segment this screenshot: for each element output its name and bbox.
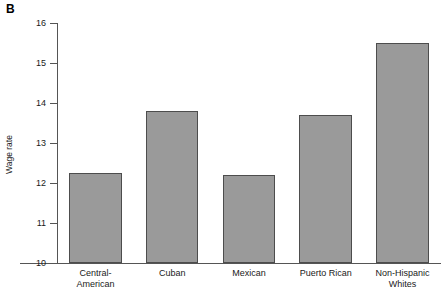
category-label: Non-HispanicWhites <box>364 268 441 290</box>
y-tick-label: 12 <box>22 179 46 188</box>
panel-label: B <box>6 2 15 16</box>
category-label-line: American <box>57 279 134 290</box>
bar-chart-figure: B Wage rate 10111213141516 Central-Ameri… <box>0 0 445 292</box>
y-tick <box>50 223 57 224</box>
category-label-line: Central- <box>57 268 134 279</box>
y-axis-title: Wage rate <box>4 160 14 174</box>
bar <box>146 111 199 263</box>
category-label: Central-American <box>57 268 134 290</box>
y-tick-label: 16 <box>22 19 46 28</box>
bar <box>299 115 352 263</box>
y-tick <box>50 103 57 104</box>
y-tick <box>50 63 57 64</box>
category-label-line: Puerto Rican <box>287 268 364 279</box>
bar <box>376 43 429 263</box>
y-tick <box>50 143 57 144</box>
y-tick-label: 15 <box>22 59 46 68</box>
y-tick <box>50 183 57 184</box>
category-label: Puerto Rican <box>287 268 364 279</box>
bar <box>223 175 276 263</box>
category-label: Mexican <box>211 268 288 279</box>
category-label-line: Mexican <box>211 268 288 279</box>
x-axis-line <box>20 263 441 264</box>
bar <box>69 173 122 263</box>
y-tick-label: 13 <box>22 139 46 148</box>
category-label-line: Whites <box>364 279 441 290</box>
category-label: Cuban <box>134 268 211 279</box>
plot-area <box>57 23 441 263</box>
category-label-line: Cuban <box>134 268 211 279</box>
y-tick <box>50 263 57 264</box>
y-tick <box>50 23 57 24</box>
category-label-line: Non-Hispanic <box>364 268 441 279</box>
y-tick-label: 10 <box>22 259 46 268</box>
y-tick-label: 11 <box>22 219 46 228</box>
y-tick-label: 14 <box>22 99 46 108</box>
